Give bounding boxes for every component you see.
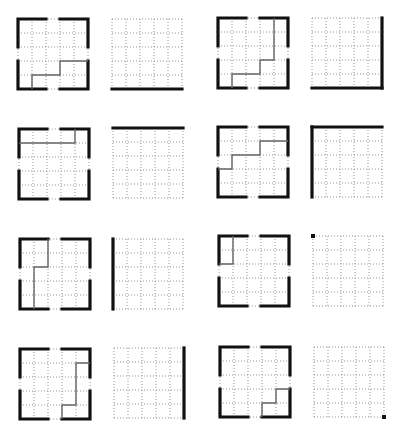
frame-board-3 xyxy=(16,126,92,202)
frame-board-8 xyxy=(217,344,293,420)
dotted-grid xyxy=(112,19,182,89)
answer-board-3 xyxy=(110,125,186,201)
frame-border xyxy=(220,347,290,417)
dotted-grid xyxy=(113,239,183,309)
frame-board-6 xyxy=(216,233,292,309)
dotted-grid xyxy=(220,347,290,417)
answer-board-4 xyxy=(309,124,385,200)
dotted-grid xyxy=(113,128,183,198)
dotted-grid xyxy=(219,236,289,306)
frame-board-2 xyxy=(215,15,291,91)
dotted-grid xyxy=(218,127,288,197)
dotted-grid xyxy=(114,348,184,418)
dotted-grid xyxy=(312,18,382,88)
frame-border xyxy=(218,18,288,88)
frame-board-5 xyxy=(17,236,93,312)
frame-border xyxy=(18,19,88,89)
dotted-grid xyxy=(20,239,90,309)
dotted-grid xyxy=(18,19,88,89)
dotted-grid xyxy=(314,347,384,417)
frame-board-7 xyxy=(17,346,93,422)
path-line xyxy=(218,141,288,169)
frame-border xyxy=(20,239,90,309)
dotted-grid xyxy=(20,349,90,419)
corner-dot-bottom-right xyxy=(382,415,386,419)
dotted-grid xyxy=(19,129,89,199)
frame-border xyxy=(218,127,288,197)
dotted-grid xyxy=(312,127,382,197)
answer-board-6 xyxy=(310,233,386,309)
frame-border xyxy=(19,129,89,199)
path-line xyxy=(62,363,90,419)
path-line xyxy=(232,18,274,88)
answer-board-8 xyxy=(311,344,387,420)
dotted-grid xyxy=(218,18,288,88)
path-line xyxy=(262,389,290,417)
answer-board-1 xyxy=(109,16,185,92)
corner-dot-top-left xyxy=(311,234,315,238)
path-line xyxy=(34,239,48,309)
dotted-grid xyxy=(313,236,383,306)
frame-border xyxy=(20,349,90,419)
highlight-edges xyxy=(312,127,382,197)
answer-board-7 xyxy=(111,345,187,421)
answer-board-5 xyxy=(110,236,186,312)
path-line xyxy=(32,61,88,89)
frame-border xyxy=(219,236,289,306)
answer-board-2 xyxy=(309,15,385,91)
highlight-edges xyxy=(312,18,382,88)
frame-board-1 xyxy=(15,16,91,92)
frame-board-4 xyxy=(215,124,291,200)
